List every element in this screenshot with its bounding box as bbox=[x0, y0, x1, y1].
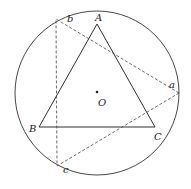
label-b: b bbox=[67, 13, 73, 24]
label-a: a bbox=[169, 79, 175, 90]
center-point-O bbox=[96, 91, 99, 94]
label-B: B bbox=[28, 123, 36, 134]
label-A: A bbox=[94, 12, 102, 23]
label-O: O bbox=[98, 97, 106, 108]
label-C: C bbox=[154, 131, 162, 142]
geometry-diagram: A B C O a b c bbox=[0, 0, 191, 189]
label-c: c bbox=[63, 164, 69, 175]
